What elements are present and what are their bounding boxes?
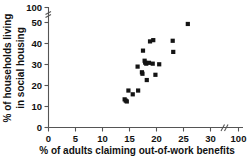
x-tick-label-0: 0 [46,133,51,144]
data-point [147,61,151,65]
y-tick-label-50: 50 [31,17,42,28]
y-axis-title-line1: % of households living [2,14,13,123]
y-tick-label-40: 40 [31,38,42,49]
data-point [136,88,140,92]
scatter-chart: 0 10 20 30 40 50 100 0 5 10 [0,0,249,157]
data-point [126,88,130,92]
data-point [136,65,140,69]
y-axis: 0 10 20 30 40 50 100 [26,2,51,133]
data-points-group [123,22,190,104]
x-tick-label-20: 20 [151,133,162,144]
data-point [151,38,155,42]
data-point [157,62,161,66]
x-tick-label-10: 10 [97,133,108,144]
x-axis-title: % of adults claiming out-of-work benefit… [39,145,235,156]
data-point [140,72,144,76]
data-point [145,78,149,82]
y-tick-label-10: 10 [31,101,42,112]
data-point [171,50,175,54]
y-tick-label-20: 20 [31,80,42,91]
y-axis-title-line2: in social housing [15,27,26,109]
chart-canvas: 0 10 20 30 40 50 100 0 5 10 [0,0,249,157]
data-point [171,39,175,43]
x-tick-label-5: 5 [73,133,79,144]
y-tick-label-30: 30 [31,59,42,70]
data-point [151,62,155,66]
data-point [125,99,129,103]
x-axis: 0 5 10 15 20 25 30 100 [46,125,247,145]
data-point [131,92,135,96]
x-tick-label-30: 30 [205,133,216,144]
x-tick-label-100: 100 [231,133,247,144]
y-tick-label-100: 100 [26,2,42,13]
x-tick-label-25: 25 [178,133,189,144]
y-tick-label-0: 0 [37,122,42,133]
data-point [153,73,157,77]
x-tick-label-15: 15 [124,133,135,144]
data-point [141,49,145,53]
data-point [186,22,190,26]
